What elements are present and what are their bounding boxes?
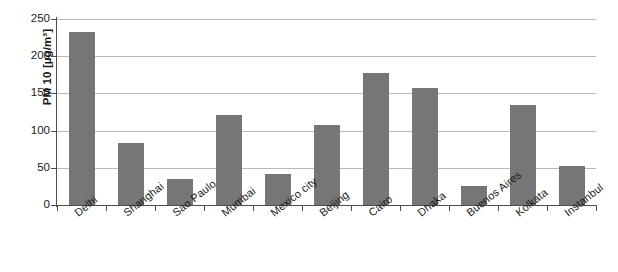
x-axis-tick-mark	[400, 206, 401, 211]
y-axis-tick-mark	[51, 19, 57, 20]
x-axis-tick-mark	[547, 206, 548, 211]
x-axis-tick-label: Delhi	[72, 193, 100, 218]
x-axis-tick-mark	[204, 206, 205, 211]
x-axis-tick-mark	[351, 206, 352, 211]
y-axis-tick-mark	[51, 168, 57, 169]
y-axis-tick-mark	[51, 131, 57, 132]
x-axis-tick-label: Instanbul	[562, 181, 605, 218]
x-axis-tick-mark	[57, 206, 58, 211]
x-axis-tick-label: Mexico city	[268, 175, 319, 219]
y-axis-tick-mark	[51, 56, 57, 57]
x-axis-tick-mark	[596, 206, 597, 211]
x-axis-tick-mark	[106, 206, 107, 211]
x-axis-tick-mark	[498, 206, 499, 211]
x-axis-tick-label: Mumbai	[219, 185, 258, 219]
x-axis-tick-mark	[449, 206, 450, 211]
x-axis-tick-label: Kolkata	[513, 186, 550, 218]
x-axis-tick-label: Dhaka	[415, 189, 448, 218]
x-axis-tick-mark	[155, 206, 156, 211]
x-axis-tick-label: Sao Paulo	[170, 177, 218, 218]
x-axis-tick-labels: DelhiShanghaiSao PauloMumbaiMexico cityB…	[0, 0, 618, 272]
y-axis-tick-mark	[51, 93, 57, 94]
x-axis-tick-label: Beijing	[317, 188, 351, 218]
x-axis-tick-label: Cairo	[366, 193, 395, 219]
x-axis-tick-mark	[253, 206, 254, 211]
bar-chart: PM 10 [µg/m³] 050100150200250 DelhiShang…	[0, 0, 618, 272]
x-axis-tick-mark	[302, 206, 303, 211]
x-axis-tick-label: Shanghai	[121, 180, 166, 219]
